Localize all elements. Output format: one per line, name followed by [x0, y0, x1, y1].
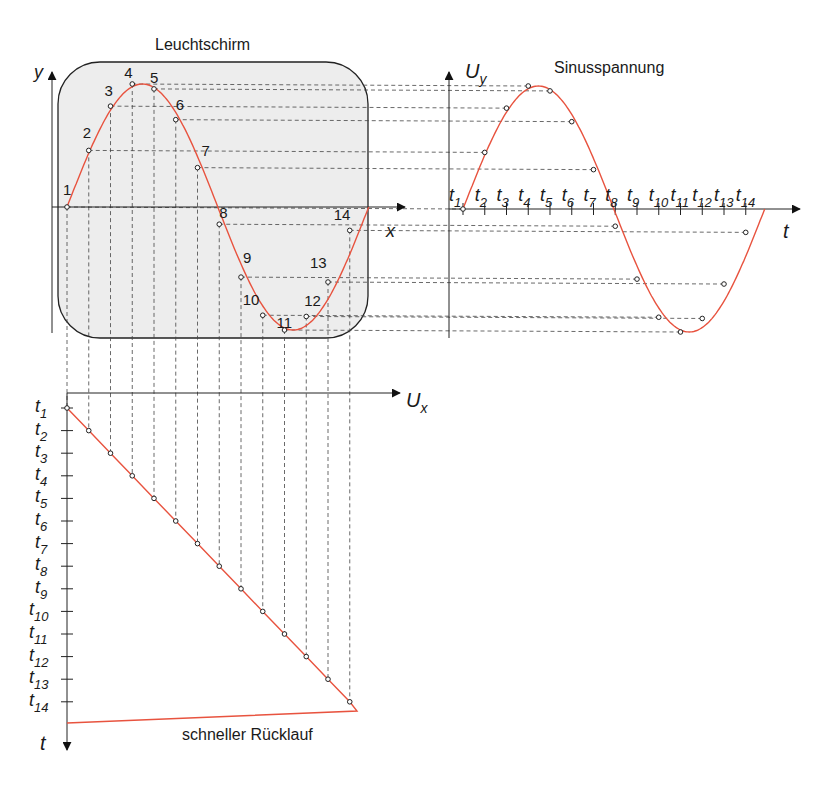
point-label: 4	[124, 64, 132, 81]
time-label: t5	[35, 486, 48, 511]
time-label: t12	[692, 185, 712, 210]
sample-point	[678, 330, 683, 335]
time-label: t12	[29, 645, 49, 670]
sample-point	[613, 224, 618, 229]
point-label: 2	[83, 124, 91, 141]
sample-point	[260, 313, 265, 318]
point-label: 6	[176, 96, 184, 113]
time-label: t5	[540, 185, 553, 210]
sine-uy-label: Uy	[465, 60, 487, 87]
time-label: t8	[35, 554, 48, 579]
point-label: 9	[243, 249, 251, 266]
sample-point	[260, 609, 265, 614]
time-label: t11	[29, 622, 48, 647]
point-label: 3	[105, 82, 113, 99]
sample-point	[65, 205, 70, 210]
sample-point	[700, 316, 705, 321]
time-label: t14	[736, 185, 755, 210]
time-label: t10	[649, 185, 669, 210]
sample-point	[282, 632, 287, 637]
time-label: t8	[605, 185, 618, 210]
point-label: 11	[277, 314, 293, 331]
time-label: t13	[29, 667, 49, 692]
sample-point	[130, 82, 135, 87]
sample-point	[173, 117, 178, 122]
sample-point	[108, 104, 113, 109]
point-label: 1	[63, 181, 71, 198]
sample-point	[304, 314, 309, 319]
sine-title: Sinusspannung	[554, 59, 664, 76]
time-label: t14	[29, 690, 48, 715]
time-label: t2	[475, 185, 488, 210]
sine-t-label: t	[783, 220, 790, 242]
sample-point	[591, 167, 596, 172]
sample-point	[130, 474, 135, 479]
sample-point	[347, 700, 352, 705]
point-label: 7	[202, 142, 210, 159]
ramp-return-label: schneller Rücklauf	[182, 726, 313, 743]
point-label: 10	[243, 291, 260, 308]
sample-point	[239, 587, 244, 592]
sample-point	[635, 277, 640, 282]
point-label: 5	[150, 69, 158, 86]
sample-point	[217, 222, 222, 227]
point-label: 13	[310, 254, 327, 271]
time-label: t6	[562, 185, 575, 210]
sample-point	[152, 496, 157, 501]
sine-time-labels: t1t2t3t4t5t6t7t8t9t10t11t12t13t14	[449, 185, 755, 210]
sample-point	[217, 564, 222, 569]
point-label: 14	[334, 206, 351, 223]
time-label: t4	[35, 464, 47, 489]
oscilloscope-diagram: 1234567891011121314 t1t2t3t4t5t6t7t8t9t1…	[0, 0, 835, 792]
screen-x-label: x	[385, 221, 396, 241]
sample-point	[239, 275, 244, 280]
point-label: 8	[219, 204, 227, 221]
screen-title: Leuchtschirm	[155, 36, 250, 53]
time-label: t9	[35, 577, 47, 602]
sample-point	[347, 228, 352, 233]
time-label: t10	[29, 599, 49, 624]
sample-point	[743, 230, 748, 235]
sample-point	[195, 541, 200, 546]
sample-point	[173, 519, 178, 524]
ramp-time-labels: t1t2t3t4t5t6t7t8t9t10t11t12t13t14	[29, 396, 49, 715]
sample-point	[86, 428, 91, 433]
sample-point	[65, 406, 70, 411]
sample-point	[326, 280, 331, 285]
time-label: t1	[35, 396, 47, 421]
time-label: t1	[449, 185, 461, 210]
screen-y-label: y	[32, 62, 44, 82]
sample-point	[326, 677, 331, 682]
time-label: t7	[35, 532, 48, 557]
sample-point	[656, 315, 661, 320]
ramp-t-label: t	[40, 732, 47, 754]
sample-point	[86, 148, 91, 153]
phosphor-screen	[58, 62, 368, 338]
time-label: t6	[35, 509, 48, 534]
sample-point	[195, 165, 200, 170]
point-label: 12	[304, 292, 321, 309]
sample-point	[548, 89, 553, 94]
sample-point	[108, 451, 113, 456]
time-label: t4	[518, 185, 530, 210]
sample-point	[569, 119, 574, 124]
time-label: t9	[627, 185, 639, 210]
time-label: t11	[671, 185, 690, 210]
sample-point	[461, 207, 466, 212]
time-label: t3	[35, 441, 48, 466]
sample-point	[722, 282, 727, 287]
time-label: t13	[714, 185, 734, 210]
sample-point	[504, 106, 509, 111]
sample-point	[152, 87, 157, 92]
sample-point	[526, 84, 531, 89]
time-label: t3	[497, 185, 510, 210]
time-label: t2	[35, 419, 48, 444]
ramp-ux-label: Ux	[406, 389, 428, 416]
time-label: t7	[584, 185, 597, 210]
sample-point	[482, 150, 487, 155]
sample-point	[304, 654, 309, 659]
